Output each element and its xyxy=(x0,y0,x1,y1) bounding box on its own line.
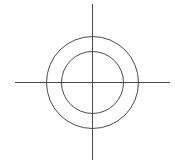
crosshair-diagram xyxy=(0,0,175,165)
